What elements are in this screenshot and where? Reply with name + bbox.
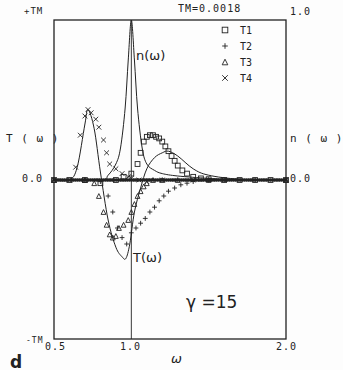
y-right-axis-label: n ( ω ) xyxy=(290,132,343,145)
gamma-annotation: γ =15 xyxy=(186,292,237,312)
curve-t xyxy=(54,110,286,260)
triangle-marker-icon xyxy=(101,210,106,215)
plus-marker-icon xyxy=(124,242,129,247)
square-marker-icon xyxy=(222,27,228,33)
triangle-marker-icon xyxy=(222,59,228,65)
plus-marker-icon xyxy=(106,194,111,199)
plus-marker-icon xyxy=(166,189,171,194)
y-right-zero-tick: 0.0 xyxy=(290,173,311,184)
square-marker-icon xyxy=(172,158,177,163)
y-left-zero-tick: 0.0 xyxy=(22,173,43,184)
square-marker-icon xyxy=(185,171,190,176)
plus-marker-icon xyxy=(129,230,134,235)
square-marker-icon xyxy=(135,162,140,167)
x-marker-icon xyxy=(120,171,125,176)
x-marker-icon xyxy=(96,125,101,130)
legend-item-t2: T2 xyxy=(222,41,252,52)
legend-item-t3: T3 xyxy=(222,57,252,68)
x-marker-icon xyxy=(78,133,83,138)
chart-title: TM=0.0018 xyxy=(178,3,241,14)
triangle-marker-icon xyxy=(138,189,143,194)
square-marker-icon xyxy=(154,134,159,139)
square-marker-icon xyxy=(151,133,156,138)
square-marker-icon xyxy=(147,133,152,138)
plus-marker-icon xyxy=(152,205,157,210)
t-curve-annotation: T(ω) xyxy=(133,250,162,265)
x-tick-0-5: 0.5 xyxy=(45,341,66,352)
triangle-marker-icon xyxy=(132,202,137,207)
triangle-marker-icon xyxy=(113,234,118,239)
plus-marker-icon xyxy=(120,235,125,240)
x-marker-icon xyxy=(222,75,228,81)
square-marker-icon xyxy=(160,139,165,144)
legend-label: T3 xyxy=(240,57,252,68)
x-axis-label: ω xyxy=(171,351,182,366)
x-tick-2-0: 2.0 xyxy=(276,341,297,352)
triangle-marker-icon xyxy=(121,222,126,227)
x-marker-icon xyxy=(107,162,112,167)
square-marker-icon xyxy=(157,136,162,141)
square-marker-icon xyxy=(163,144,168,149)
triangle-marker-icon xyxy=(96,194,101,199)
legend-label: T1 xyxy=(240,25,252,36)
x-marker-icon xyxy=(104,150,109,155)
series-t1 xyxy=(52,133,289,186)
plus-marker-icon xyxy=(134,226,139,231)
y-left-top-tick: +TM xyxy=(24,6,43,16)
plot-markers xyxy=(52,107,289,246)
panel-label: d xyxy=(10,352,22,370)
y-left-axis-label: T ( ω ) xyxy=(6,132,59,145)
legend: T1T2T3T4 xyxy=(222,25,252,84)
legend-item-t4: T4 xyxy=(222,73,252,84)
plus-marker-icon xyxy=(172,186,177,191)
legend-label: T2 xyxy=(240,41,252,52)
plus-marker-icon xyxy=(138,221,143,226)
n-curve-annotation: n(ω) xyxy=(136,48,165,63)
plus-marker-icon xyxy=(157,198,162,203)
plus-marker-icon xyxy=(147,210,152,215)
series-t4 xyxy=(52,107,289,184)
x-tick-1-0: 1.0 xyxy=(120,341,141,352)
x-marker-icon xyxy=(113,166,118,171)
square-marker-icon xyxy=(141,139,146,144)
x-marker-icon xyxy=(101,138,106,143)
square-marker-icon xyxy=(175,163,180,168)
plus-marker-icon xyxy=(110,210,115,215)
triangle-marker-icon xyxy=(104,222,109,227)
legend-item-t1: T1 xyxy=(222,25,252,36)
square-marker-icon xyxy=(180,168,185,173)
plot-curves xyxy=(54,20,286,259)
x-marker-icon xyxy=(93,117,98,122)
square-marker-icon xyxy=(144,134,149,139)
series-t3 xyxy=(52,178,289,240)
y-right-top-tick: 1.0 xyxy=(290,6,311,17)
legend-label: T4 xyxy=(240,73,252,84)
triangle-marker-icon xyxy=(126,218,131,223)
square-marker-icon xyxy=(169,154,174,159)
plus-marker-icon xyxy=(143,216,148,221)
y-left-bottom-tick: -TM xyxy=(26,336,43,345)
plus-marker-icon xyxy=(222,43,228,49)
plus-marker-icon xyxy=(178,182,183,187)
series-t2 xyxy=(52,178,289,247)
plus-marker-icon xyxy=(161,194,166,199)
